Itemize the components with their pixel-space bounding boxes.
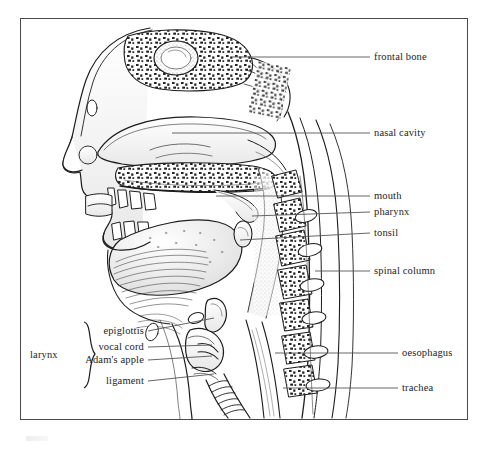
label-epiglottis: epiglottis xyxy=(40,325,144,336)
label-larynx: larynx xyxy=(30,349,58,360)
label-spinal-column: spinal column xyxy=(374,265,435,276)
label-pharynx: pharynx xyxy=(374,206,409,217)
scan-artifact xyxy=(26,436,48,441)
leader-epiglottis xyxy=(148,318,214,331)
leader-ligament xyxy=(148,374,214,381)
label-nasal-cavity: nasal cavity xyxy=(374,127,426,138)
label-ligament: ligament xyxy=(40,375,144,386)
label-frontal-bone: frontal bone xyxy=(374,51,427,62)
label-tonsil: tonsil xyxy=(374,227,398,238)
leader-pharynx xyxy=(252,212,370,216)
figure-canvas: frontal bone nasal cavity mouth pharynx … xyxy=(0,0,487,453)
leader-tonsil xyxy=(240,233,370,240)
label-trachea: trachea xyxy=(402,382,433,393)
label-oesophagus: oesophagus xyxy=(402,347,453,358)
leader-adams-apple xyxy=(148,356,212,360)
label-mouth: mouth xyxy=(374,190,402,201)
leader-vocal-cord xyxy=(148,345,212,347)
